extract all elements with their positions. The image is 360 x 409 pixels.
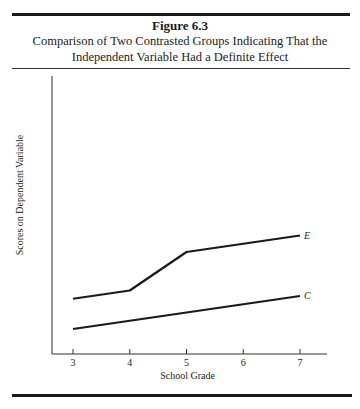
x-tick-label: 6 [241, 357, 246, 368]
line-chart: 34567 EC [0, 0, 360, 409]
series-lines: EC [73, 230, 311, 330]
axes: 34567 [52, 76, 327, 368]
x-tick-label: 4 [127, 357, 132, 368]
x-tick-label: 3 [71, 357, 76, 368]
x-tick-label: 5 [184, 357, 189, 368]
x-tick-label: 7 [298, 357, 303, 368]
series-label-c: C [304, 290, 311, 301]
bottom-rule [12, 394, 352, 397]
series-line-e [73, 236, 300, 299]
y-axis-label: Scores on Dependent Variable [14, 110, 25, 280]
series-line-c [73, 296, 300, 329]
x-axis-label: School Grade [0, 370, 360, 381]
series-label-e: E [303, 230, 310, 241]
